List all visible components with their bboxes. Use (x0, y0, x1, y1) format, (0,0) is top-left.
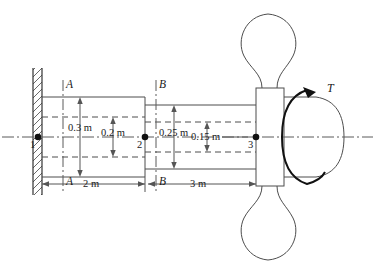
dimension-label-inner-right: 0.15 m (191, 132, 220, 143)
section-label-a-top: A (66, 79, 73, 91)
section-label-a-bottom: A (66, 176, 73, 188)
node-label-3: 3 (248, 140, 253, 151)
section-label-b-bottom: B (159, 176, 166, 188)
torsion-figure: 1 2 3 A A B B 0.3 m 0.2 m 0.25 m 0.15 m … (0, 0, 375, 268)
node-label-1: 1 (30, 140, 35, 151)
lower-handle-bulb (241, 186, 296, 260)
dimension-label-inner-left: 0.2 m (101, 128, 125, 139)
dimension-label-outer-left: 0.3 m (68, 123, 92, 134)
node-label-2: 2 (137, 140, 142, 151)
dimension-label-length-1-2: 2 m (83, 179, 99, 190)
torque-symbol (282, 87, 325, 184)
upper-handle-bulb (241, 14, 296, 88)
dimension-label-length-2-3: 3 m (190, 179, 206, 190)
section-label-b-top: B (159, 79, 166, 91)
dimension-label-outer-right: 0.25 m (159, 128, 188, 139)
node-dot-1 (35, 134, 42, 141)
node-dot-2 (142, 134, 149, 141)
torque-label: T (327, 82, 334, 94)
node-dot-3 (253, 134, 260, 141)
